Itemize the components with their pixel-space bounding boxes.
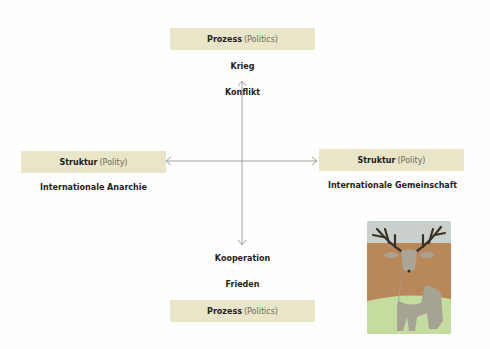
box-process-bottom-sub: (Politics) bbox=[244, 307, 278, 316]
label-kooperation: Kooperation bbox=[200, 254, 285, 263]
label-frieden: Frieden bbox=[200, 280, 285, 289]
box-process-bottom-title: Prozess bbox=[207, 307, 242, 316]
box-process-bottom: Prozess(Politics) bbox=[170, 300, 315, 322]
deer-image bbox=[367, 221, 451, 334]
